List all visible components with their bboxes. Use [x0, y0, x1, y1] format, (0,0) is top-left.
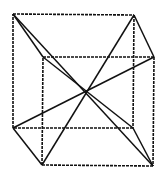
edge-BC — [133, 15, 134, 128]
diagonal-EC — [43, 57, 133, 128]
edge-GH — [42, 165, 153, 166]
diagonal-AG — [13, 14, 153, 166]
edge-BF — [134, 15, 154, 57]
edge-HE — [42, 57, 43, 165]
edge-DH — [13, 128, 42, 165]
edge-AE — [13, 14, 43, 57]
edge-AB — [13, 14, 134, 15]
cube-diagram — [0, 0, 165, 178]
space-diagonals — [13, 14, 154, 166]
edge-FG — [153, 57, 154, 166]
